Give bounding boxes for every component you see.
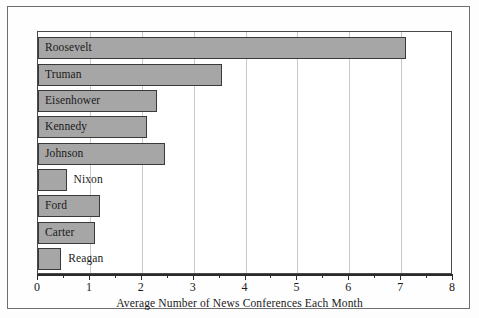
- bar-label-row: Kennedy: [38, 116, 453, 138]
- x-minor-tick-0.5: [63, 274, 64, 278]
- x-tick-label-7: 7: [397, 281, 403, 293]
- bar-label: Ford: [45, 200, 67, 212]
- bar-label: Roosevelt: [45, 42, 92, 54]
- x-minor-tick-3.5: [219, 274, 220, 278]
- x-tick-label-4: 4: [242, 281, 248, 293]
- bar-label: Kennedy: [45, 121, 87, 133]
- bar-label: Eisenhower: [45, 95, 100, 107]
- bar-label: Nixon: [74, 174, 103, 186]
- bar-label: Johnson: [45, 148, 83, 160]
- bar-label-row: Truman: [38, 64, 453, 86]
- bar-label-row: Johnson: [38, 143, 453, 165]
- x-minor-tick-7.5: [426, 274, 427, 278]
- bar-label-row: Eisenhower: [38, 90, 453, 112]
- bar-label-row: Reagan: [38, 248, 453, 270]
- x-tick-label-0: 0: [34, 281, 40, 293]
- x-axis-title: Average Number of News Conferences Each …: [0, 297, 479, 309]
- x-tick-label-5: 5: [293, 281, 299, 293]
- x-minor-tick-6.5: [374, 274, 375, 278]
- x-minor-tick-2.5: [167, 274, 168, 278]
- chart-figure: RooseveltTrumanEisenhowerKennedyJohnsonN…: [0, 0, 479, 318]
- plot-area: RooseveltTrumanEisenhowerKennedyJohnsonN…: [37, 31, 452, 274]
- bar-label: Truman: [45, 69, 82, 81]
- x-tick-label-8: 8: [449, 281, 455, 293]
- x-minor-tick-4.5: [270, 274, 271, 278]
- x-tick-label-2: 2: [138, 281, 144, 293]
- x-minor-tick-5.5: [322, 274, 323, 278]
- bar-label: Reagan: [68, 253, 103, 265]
- bar-label-row: Ford: [38, 195, 453, 217]
- bar-label-row: Nixon: [38, 169, 453, 191]
- x-tick-label-6: 6: [345, 281, 351, 293]
- bar-label-row: Roosevelt: [38, 37, 453, 59]
- bar-label: Carter: [45, 227, 74, 239]
- x-tick-label-3: 3: [190, 281, 196, 293]
- bar-label-row: Carter: [38, 222, 453, 244]
- x-tick-label-1: 1: [86, 281, 92, 293]
- x-minor-tick-1.5: [115, 274, 116, 278]
